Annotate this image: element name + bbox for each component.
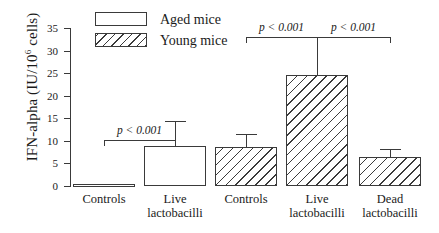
y-axis-tick-label: 20 (36, 91, 58, 102)
bar (359, 157, 421, 186)
legend-label: Aged mice (160, 13, 221, 27)
error-bar-stem (390, 149, 391, 157)
bar (144, 146, 206, 186)
y-axis-tick-label: 15 (36, 113, 58, 124)
x-axis-label: Deadlactobacilli (342, 192, 438, 220)
x-axis-label-line: lactobacilli (342, 206, 438, 220)
error-bar-stem (246, 134, 247, 147)
significance-bracket-leg (390, 37, 391, 43)
x-axis-label-line: Dead (342, 192, 438, 206)
x-axis-label-line: lactobacilli (127, 206, 223, 220)
significance-bracket-leg (246, 37, 247, 43)
legend-swatch (95, 33, 147, 47)
significance-bracket-leg (317, 37, 318, 43)
y-axis-tick (64, 163, 70, 164)
y-axis-tick (64, 73, 70, 74)
bar (286, 75, 348, 186)
y-axis-tick-label: 35 (36, 23, 58, 34)
y-axis-tick-label: 30 (36, 46, 58, 57)
significance-bracket-leg (104, 140, 105, 146)
y-axis-tick (64, 28, 70, 29)
significance-bracket-bar (104, 140, 175, 141)
p-value-label: p < 0.001 (304, 21, 404, 33)
error-bar-cap (380, 149, 401, 150)
error-bar-cap (236, 134, 257, 135)
legend-label: Young mice (160, 34, 227, 48)
y-axis-tick (64, 141, 70, 142)
y-axis-line (70, 28, 71, 187)
significance-bracket-bar (246, 37, 317, 38)
y-axis-tick (64, 51, 70, 52)
y-axis-tick (64, 96, 70, 97)
significance-bracket-leg (175, 140, 176, 146)
p-value-label: p < 0.001 (90, 124, 190, 136)
y-axis-tick-label: 10 (36, 136, 58, 147)
y-axis-tick-label: 5 (36, 158, 58, 169)
legend-swatch (95, 12, 147, 26)
y-axis-tick-label: 25 (36, 68, 58, 79)
y-axis-tick-label: 0 (36, 181, 58, 192)
significance-bracket-bar (317, 37, 390, 38)
y-axis-tick (64, 186, 70, 187)
figure-ifn-alpha-bar-chart: IFN-alpha (IU/106 cells) 05101520253035 … (0, 0, 439, 233)
y-axis-tick (64, 118, 70, 119)
bar (73, 184, 135, 187)
y-axis-label-exponent: 6 (23, 50, 33, 55)
error-bar-cap (165, 121, 186, 122)
bar (215, 147, 277, 186)
